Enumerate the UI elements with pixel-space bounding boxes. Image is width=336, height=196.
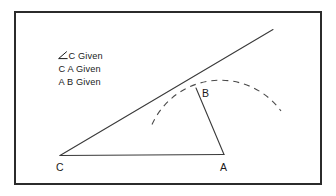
- given-line-2: C A Given: [59, 64, 101, 74]
- diagram-border: [15, 12, 321, 184]
- geometry-diagram: C Given C A Given A B Given C A B: [0, 0, 336, 196]
- vertex-label-A: A: [220, 161, 227, 173]
- given-line-1: C Given: [69, 51, 103, 61]
- vertex-label-C: C: [56, 161, 64, 173]
- figure-root: C Given C A Given A B Given C A B: [0, 0, 336, 196]
- given-line-3: A B Given: [59, 77, 101, 87]
- vertex-label-B: B: [202, 87, 209, 99]
